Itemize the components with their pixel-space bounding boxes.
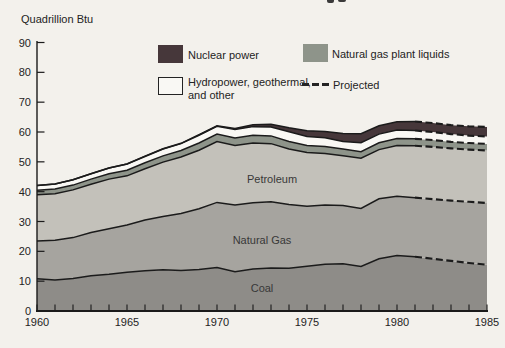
x-tick-label-1960: 1960	[19, 316, 55, 328]
y-tick-label-90: 90	[5, 37, 31, 49]
x-tick-label-1980: 1980	[379, 316, 415, 328]
x-tick-label-1985: 1985	[469, 316, 505, 328]
area-label-natural-gas: Natural Gas	[233, 234, 292, 246]
y-tick-label-60: 60	[5, 126, 31, 138]
x-tick-label-1975: 1975	[289, 316, 325, 328]
y-tick-label-30: 30	[5, 216, 31, 228]
y-tick-label-50: 50	[5, 156, 31, 168]
x-tick-label-1970: 1970	[199, 316, 235, 328]
area-label-coal: Coal	[251, 282, 274, 294]
energy-production-stacked-area-chart: Quadrillion Btu Nuclear power Natural ga…	[0, 0, 505, 348]
y-tick-label-80: 80	[5, 66, 31, 78]
y-tick-label-40: 40	[5, 186, 31, 198]
area-label-petroleum: Petroleum	[247, 173, 297, 185]
x-tick-label-1965: 1965	[109, 316, 145, 328]
y-tick-label-70: 70	[5, 96, 31, 108]
y-tick-label-20: 20	[5, 245, 31, 257]
y-tick-label-10: 10	[5, 275, 31, 287]
